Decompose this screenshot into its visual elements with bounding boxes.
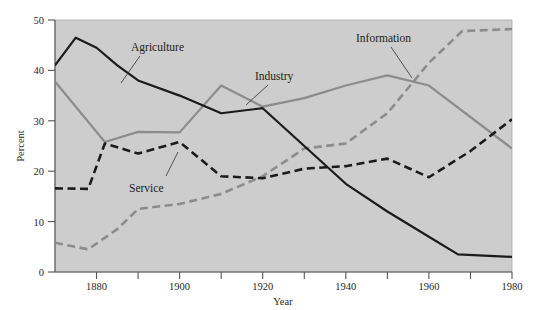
x-axis-tick-labels: 1880 1900 1920 1940 1960 1980	[86, 281, 523, 292]
y-tick-label-10: 10	[34, 217, 45, 228]
x-tick-label-1960: 1960	[418, 281, 439, 292]
x-axis-ticks	[97, 272, 513, 279]
x-tick-label-1900: 1900	[169, 281, 190, 292]
series-label-service: Service	[129, 182, 163, 194]
y-axis-tick-labels: 0 10 20 30 40 50	[34, 15, 45, 278]
y-axis-title: Percent	[15, 130, 26, 162]
series-label-industry: Industry	[255, 70, 294, 83]
y-tick-label-50: 50	[34, 15, 45, 26]
series-label-agriculture: Agriculture	[131, 41, 184, 54]
series-label-information: Information	[356, 32, 411, 44]
figure-container: 0 10 20 30 40 50 Percent 1880 1900 1920	[0, 0, 533, 310]
y-tick-label-40: 40	[34, 65, 45, 76]
x-axis-title: Year	[273, 296, 293, 307]
x-tick-label-1980: 1980	[502, 281, 523, 292]
x-tick-label-1920: 1920	[252, 281, 273, 292]
line-chart: 0 10 20 30 40 50 Percent 1880 1900 1920	[0, 0, 533, 310]
y-tick-label-30: 30	[34, 116, 45, 127]
y-axis-ticks	[48, 20, 55, 272]
x-tick-label-1940: 1940	[335, 281, 356, 292]
x-tick-label-1880: 1880	[86, 281, 107, 292]
plot-background	[55, 20, 512, 272]
y-tick-label-20: 20	[34, 166, 45, 177]
y-tick-label-0: 0	[39, 267, 44, 278]
